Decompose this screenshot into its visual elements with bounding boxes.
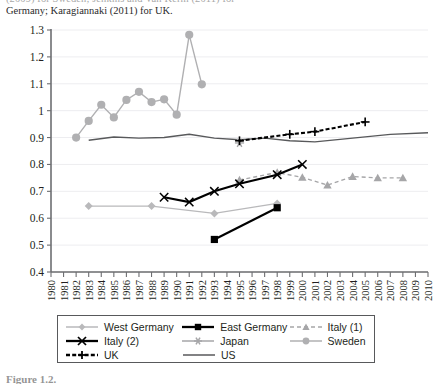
series-marker-sweden (160, 95, 168, 103)
y-axis-label: 1.1 (30, 78, 45, 90)
top-caption: (2009) for Sweden; Jenkins and Van Kerm … (6, 0, 430, 17)
legend-key-east-germany-icon (181, 321, 215, 333)
y-axis-label: 0.9 (30, 132, 45, 144)
x-axis-label: 1987 (134, 280, 145, 301)
legend-key-glyph (65, 349, 99, 361)
x-axis-label: 1986 (121, 280, 132, 301)
series-marker-west-germany (148, 202, 156, 210)
x-axis-label: 1995 (235, 280, 246, 301)
series-marker-italy-1 (298, 173, 306, 181)
legend-item-uk[interactable]: UK (58, 348, 182, 362)
x-axis-label: 1998 (272, 280, 283, 301)
legend-key-glyph (65, 335, 99, 347)
y-axis-label: 0.5 (30, 239, 45, 251)
legend-key-glyph (182, 349, 216, 361)
x-axis-label: 1988 (147, 280, 158, 301)
bottom-caption: Figure 1.2. (6, 374, 430, 384)
legend-item-west-germany[interactable]: West Germany (58, 320, 181, 334)
legend-label-sweden: Sweden (328, 335, 366, 347)
x-axis-label: 1991 (184, 280, 195, 301)
y-axis-label: 0.8 (30, 158, 45, 170)
x-axis-label: 1996 (247, 280, 258, 301)
legend-row: UKUS (58, 348, 374, 362)
x-axis-label: 2004 (348, 279, 359, 301)
legend-key-west-germany-icon (65, 321, 99, 333)
x-axis-label: 2002 (322, 280, 333, 301)
legend-key-us-icon (182, 349, 216, 361)
chart-plot-area: 1.31.21.110.90.80.70.60.50.4198019811982… (0, 18, 434, 318)
legend-key-glyph (181, 321, 215, 333)
x-axis-label: 1982 (71, 280, 82, 301)
x-axis-label: 2007 (385, 280, 396, 301)
y-axis-label: 1 (38, 105, 44, 117)
legend-key-glyph (65, 321, 99, 333)
legend-item-italy-2[interactable]: Italy (2) (58, 334, 181, 348)
legend-key-italy-2-icon (65, 335, 99, 347)
series-marker-sweden (110, 113, 118, 121)
legend-label-italy-2: Italy (2) (104, 335, 139, 347)
series-marker-sweden (72, 133, 80, 141)
y-axis-label: 0.6 (30, 212, 45, 224)
series-marker-sweden (97, 101, 105, 109)
x-axis-label: 1984 (96, 279, 107, 301)
legend-label-japan: Japan (220, 335, 249, 347)
x-axis-label: 2005 (360, 280, 371, 301)
legend-item-us[interactable]: US (182, 348, 290, 362)
x-axis-label: 2008 (398, 280, 409, 301)
x-axis-label: 2006 (373, 280, 384, 301)
y-axis-label: 1.3 (30, 24, 45, 36)
x-axis-label: 2003 (335, 280, 346, 301)
series-line-sweden (76, 35, 202, 138)
x-axis-label: 1983 (84, 280, 95, 301)
series-marker-east-germany (211, 236, 218, 243)
series-marker-sweden (198, 80, 206, 88)
series-marker-sweden (122, 96, 130, 104)
x-axis-label: 1981 (59, 280, 70, 301)
x-axis-label: 1994 (222, 279, 233, 301)
x-axis-label: 1997 (260, 280, 271, 301)
series-marker-sweden (147, 98, 155, 106)
y-axis-label: 0.7 (30, 185, 45, 197)
legend-label-us: US (221, 349, 236, 361)
x-axis-label: 1985 (109, 280, 120, 301)
legend-row: West GermanyEast GermanyItaly (1) (58, 320, 374, 334)
series-marker-east-germany (274, 204, 281, 211)
top-caption-clipped-line: (2009) for Sweden; Jenkins and Van Kerm … (6, 0, 430, 5)
legend-label-italy-1: Italy (1) (328, 321, 363, 333)
series-marker-sweden (135, 88, 143, 96)
legend-item-east-germany[interactable]: East Germany (181, 320, 288, 334)
series-marker-italy-1 (374, 174, 382, 182)
chart-legend: West GermanyEast GermanyItaly (1)Italy (… (57, 315, 375, 363)
legend-item-japan[interactable]: Japan (181, 334, 288, 348)
series-line-west-germany (89, 203, 278, 213)
x-axis-label: 1993 (209, 280, 220, 301)
legend-label-uk: UK (104, 349, 119, 361)
legend-label-east-germany: East Germany (220, 321, 287, 333)
legend-key-glyph (181, 335, 215, 347)
x-axis-label: 2010 (423, 280, 434, 301)
series-marker-sweden (173, 111, 181, 119)
legend-row: Italy (2)JapanSweden (58, 334, 374, 348)
legend-item-sweden[interactable]: Sweden (289, 334, 374, 348)
legend-key-sweden-icon (289, 335, 323, 347)
x-axis-label: 2001 (310, 280, 321, 301)
x-axis-label: 2000 (297, 280, 308, 301)
x-axis-label: 1989 (159, 280, 170, 301)
series-line-italy-2 (164, 164, 302, 202)
x-axis-label: 1990 (172, 280, 183, 301)
y-axis-label: 1.2 (30, 51, 45, 63)
x-axis-label: 2009 (410, 280, 421, 301)
legend-key-italy-1-icon (289, 321, 323, 333)
chart-svg: 1.31.21.110.90.80.70.60.50.4198019811982… (0, 18, 434, 318)
legend-key-japan-icon (181, 335, 215, 347)
series-marker-sweden (85, 117, 93, 125)
series-marker-west-germany (85, 202, 93, 210)
legend-key-uk-icon (65, 349, 99, 361)
legend-label-west-germany: West Germany (104, 321, 174, 333)
legend-key-glyph (289, 321, 323, 333)
top-caption-text: Germany; Karagiannaki (2011) for UK. (6, 5, 173, 16)
x-axis-label: 1999 (285, 280, 296, 301)
series-marker-west-germany (210, 209, 218, 217)
legend-item-italy-1[interactable]: Italy (1) (289, 320, 374, 334)
y-axis-label: 0.4 (30, 266, 45, 278)
